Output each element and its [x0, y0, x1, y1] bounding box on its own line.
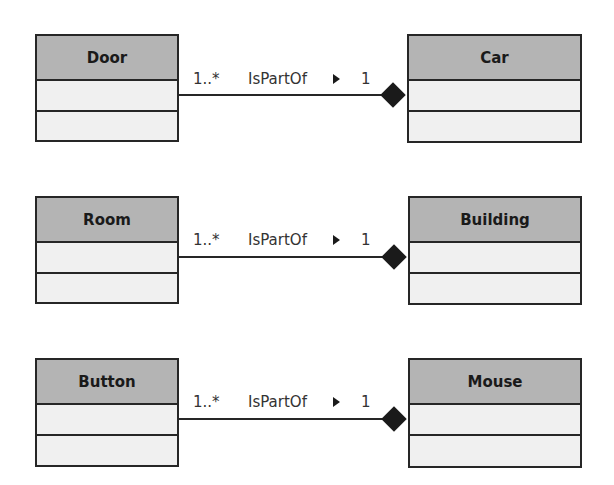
attributes-compartment	[37, 243, 177, 274]
operations-compartment	[37, 112, 177, 140]
attributes-compartment	[37, 405, 177, 436]
composition-diamond-icon	[380, 82, 405, 107]
class-box-building[interactable]: Building	[408, 196, 582, 305]
association-name: IsPartOf	[248, 232, 307, 248]
class-box-car[interactable]: Car	[407, 34, 582, 143]
class-box-button[interactable]: Button	[35, 358, 179, 467]
part-multiplicity: 1..*	[193, 71, 220, 87]
association-line[interactable]	[179, 418, 385, 420]
attributes-compartment	[410, 243, 580, 274]
whole-multiplicity: 1	[361, 232, 371, 248]
operations-compartment	[37, 274, 177, 302]
association-line[interactable]	[179, 256, 385, 258]
whole-multiplicity: 1	[361, 71, 371, 87]
composition-diamond-icon	[381, 244, 406, 269]
class-name: Room	[37, 198, 177, 243]
uml-diagram: Door 1..* IsPartOf 1 Car Room 1..* IsPar…	[0, 0, 614, 485]
operations-compartment	[37, 436, 177, 464]
composition-diamond-icon	[381, 406, 406, 431]
part-multiplicity: 1..*	[193, 394, 220, 410]
whole-multiplicity: 1	[361, 394, 371, 410]
attributes-compartment	[37, 81, 177, 112]
triangle-right-icon	[333, 397, 340, 407]
class-name: Mouse	[410, 360, 580, 405]
class-name: Car	[409, 36, 580, 81]
operations-compartment	[410, 274, 580, 302]
triangle-right-icon	[333, 74, 340, 84]
class-name: Building	[410, 198, 580, 243]
operations-compartment	[409, 112, 580, 140]
class-name: Door	[37, 36, 177, 81]
triangle-right-icon	[333, 235, 340, 245]
operations-compartment	[410, 436, 580, 464]
class-box-mouse[interactable]: Mouse	[408, 358, 582, 468]
class-box-door[interactable]: Door	[35, 34, 179, 142]
attributes-compartment	[409, 81, 580, 112]
class-name: Button	[37, 360, 177, 405]
association-line[interactable]	[179, 94, 385, 96]
attributes-compartment	[410, 405, 580, 436]
association-name: IsPartOf	[248, 394, 307, 410]
association-name: IsPartOf	[248, 71, 307, 87]
part-multiplicity: 1..*	[193, 232, 220, 248]
class-box-room[interactable]: Room	[35, 196, 179, 304]
